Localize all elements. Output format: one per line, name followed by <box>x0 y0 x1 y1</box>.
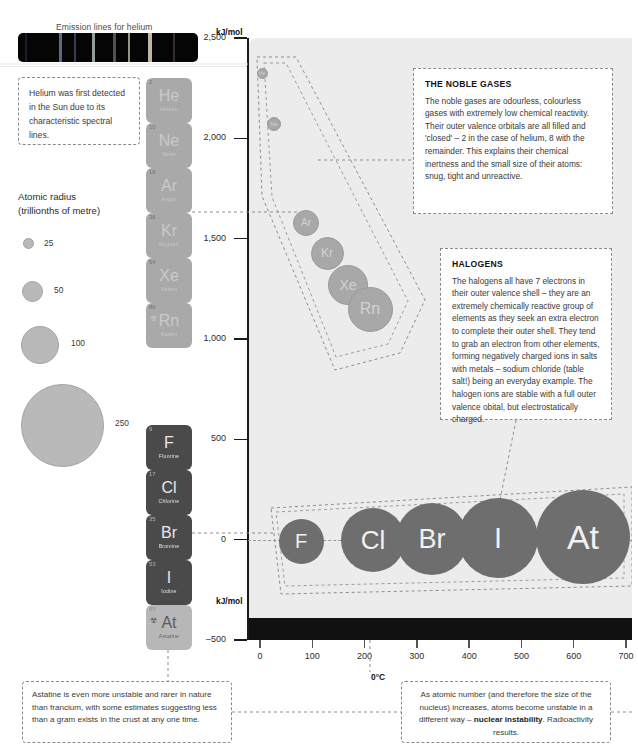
x-tick-label: 700 <box>606 651 638 661</box>
chart-bubble-label: I <box>494 524 502 553</box>
tile-atomic-number: 35 <box>149 516 156 522</box>
tile-element-name: Bromine <box>146 543 192 549</box>
chart-bubble-rn[interactable]: Rn <box>348 287 393 332</box>
x-tick-label: 200 <box>345 651 385 661</box>
tile-element-name: Neon <box>146 151 192 157</box>
x-tick-label: 400 <box>449 651 489 661</box>
emission-line-2 <box>74 33 76 62</box>
x-tick-mark <box>259 640 260 648</box>
y-tick-mark <box>234 539 247 541</box>
x-tick-mark <box>364 640 365 648</box>
tile-atomic-number: 18 <box>149 169 156 175</box>
legend-bubble-100 <box>21 326 59 364</box>
element-tile-he[interactable]: 2HeHelium <box>146 78 192 123</box>
chart-bubble-label: Br <box>419 526 446 553</box>
legend-bubble-50 <box>22 281 43 302</box>
element-tile-f[interactable]: 9FFluorine <box>146 425 192 470</box>
x-tick-label: 300 <box>397 651 437 661</box>
chart-bubble-label: F <box>295 531 307 551</box>
x-tick-label: 100 <box>292 651 332 661</box>
emission-line-3 <box>92 33 96 62</box>
tile-atomic-number: 9 <box>149 426 152 432</box>
y-axis-line <box>247 38 249 640</box>
zero-celsius-label: 0°C <box>371 672 385 682</box>
emission-line-1 <box>59 33 62 62</box>
tile-atomic-number: 85 <box>149 606 156 612</box>
tile-element-name: Fluorine <box>146 453 192 459</box>
chart-bubble-i[interactable]: I <box>458 498 538 578</box>
chart-bubble-at[interactable]: At <box>536 490 630 584</box>
element-tile-ar[interactable]: 18ArArgon <box>146 168 192 213</box>
tile-symbol: Cl <box>146 480 192 496</box>
tile-atomic-number: 54 <box>149 259 156 265</box>
callout-halogens: HALOGENS The halogens all have 7 electro… <box>440 248 612 420</box>
legend-bubble-250 <box>21 384 104 467</box>
y-tick-label: 2,000 <box>170 132 226 142</box>
tile-element-name: Iodine <box>146 588 192 594</box>
y-tick-mark <box>234 238 247 240</box>
chart-bubble-label: Xe <box>339 278 356 292</box>
radioactive-icon: ☢ <box>150 617 157 625</box>
chart-bubble-ne[interactable]: Ne <box>267 117 281 131</box>
callout-noble-title: THE NOBLE GASES <box>425 78 601 91</box>
y-tick-mark <box>234 439 247 441</box>
chart-bottom-black-bar <box>248 618 632 640</box>
note-nuclear-instability: As atomic number (and therefore the size… <box>401 681 611 743</box>
tile-atomic-number: 2 <box>149 79 152 85</box>
x-tick-label: 500 <box>501 651 541 661</box>
y-tick-label: 1,000 <box>170 333 226 343</box>
callout-halogens-title: HALOGENS <box>452 258 600 271</box>
chart-bubble-label: Ar <box>301 218 311 228</box>
x-tick-mark <box>468 640 469 648</box>
callout-noble-body: The noble gases are odourless, colourles… <box>425 95 601 183</box>
note-nuclear-bold: nuclear instability <box>474 715 543 724</box>
emission-line-6 <box>148 33 152 62</box>
chart-bubble-label: Kr <box>321 247 333 259</box>
y-tick-mark <box>234 338 247 340</box>
tile-element-name: Helium <box>146 106 192 112</box>
tile-atomic-number: 36 <box>149 214 156 220</box>
legend-title: Atomic radius (trillionths of metre) <box>18 190 148 218</box>
y-tick-mark <box>234 37 247 39</box>
tile-symbol: Ar <box>146 178 192 194</box>
legend-value-50: 50 <box>54 285 63 295</box>
y-tick-mark <box>234 138 247 140</box>
element-tile-ne[interactable]: 10NeNeon <box>146 123 192 168</box>
legend-value-25: 25 <box>44 238 53 248</box>
x-tick-label: 0 <box>240 651 280 661</box>
element-tile-cl[interactable]: 17ClChlorine <box>146 470 192 515</box>
x-tick-mark <box>625 640 626 648</box>
tile-atomic-number: 53 <box>149 561 156 567</box>
chart-bubble-label: Ne <box>270 121 278 127</box>
x-tick-label: 600 <box>554 651 594 661</box>
tile-atomic-number: 86 <box>149 304 156 310</box>
tile-atomic-number: 17 <box>149 471 156 477</box>
emission-line-4 <box>113 33 115 62</box>
y-tick-label: 1,500 <box>170 233 226 243</box>
chart-bubble-label: At <box>567 520 599 554</box>
tile-element-name: Chlorine <box>146 498 192 504</box>
x-tick-mark <box>312 640 313 648</box>
tile-symbol: I <box>146 570 192 586</box>
y-axis-unit-top: kJ/mol <box>216 27 243 37</box>
callout-halogens-body: The halogens all have 7 electrons in the… <box>452 275 600 426</box>
tile-atomic-number: 10 <box>149 124 156 130</box>
tile-element-name: Xenon <box>146 286 192 292</box>
element-tile-xe[interactable]: 54XeXenon <box>146 258 192 303</box>
chart-bubble-kr[interactable]: Kr <box>311 237 344 270</box>
chart-bubble-ar[interactable]: Ar <box>293 210 319 236</box>
legend-value-100: 100 <box>71 338 85 348</box>
y-tick-label: –500 <box>170 634 226 644</box>
y-tick-label: 500 <box>170 433 226 443</box>
y-tick-label: 0 <box>170 534 226 544</box>
y-axis-unit-bottom: kJ/mol <box>216 596 243 606</box>
legend-bubble-25 <box>23 238 34 249</box>
chart-bubble-f[interactable]: F <box>279 519 324 564</box>
spectrum-title: Emission lines for helium <box>56 22 216 32</box>
element-tile-i[interactable]: 53IIodine <box>146 560 192 605</box>
legend-value-250: 250 <box>115 418 129 428</box>
chart-bubble-he[interactable]: He <box>257 68 268 79</box>
chart-bubble-label: He <box>259 71 265 76</box>
chart-bubble-label: Cl <box>361 527 386 553</box>
note-helium: Helium was first detected in the Sun due… <box>18 77 140 145</box>
